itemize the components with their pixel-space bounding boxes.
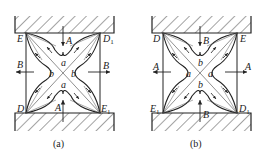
corner-label-top-left: D: [152, 33, 161, 44]
corner-label-top-right: E: [239, 33, 246, 44]
region-label-left: b: [49, 68, 54, 79]
corner-label-top-left: E: [16, 33, 23, 44]
region-label-top: b: [198, 57, 203, 68]
arrow-label-bottom: A: [54, 102, 62, 113]
arrow-label-top: A: [65, 35, 73, 46]
region-label-right: b: [71, 68, 76, 79]
region-label-bottom: a: [61, 79, 66, 90]
region-label-bottom: b: [198, 79, 203, 90]
region-label-left: a: [186, 68, 191, 79]
arrow-label-left: B: [17, 59, 23, 70]
compression-diagram: E D1 D E1 A A B B a a b b (a) D E E1 D1 …: [0, 0, 266, 159]
region-label-top: a: [61, 57, 66, 68]
arrow-label-bottom: B: [203, 109, 209, 120]
arrow-label-right: A: [244, 61, 252, 72]
panel-b: D E E1 D1 B B A A b b a a (b): [149, 16, 252, 150]
arrow-label-left: A: [152, 61, 160, 72]
arrow-label-top: B: [203, 35, 209, 46]
caption-a: (a): [53, 138, 64, 150]
corner-label-top-right: D1: [102, 33, 114, 46]
panel-a: E D1 D E1 A A B B a a b b (a): [15, 16, 114, 150]
arrow-label-right: B: [103, 60, 109, 71]
corner-label-bottom-left: D: [16, 103, 25, 114]
region-label-right: a: [208, 68, 213, 79]
caption-b: (b): [190, 138, 202, 150]
